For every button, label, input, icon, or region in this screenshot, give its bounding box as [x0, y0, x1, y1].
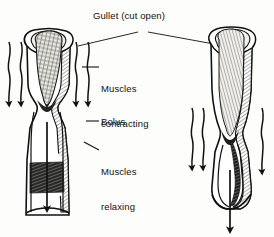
label-muscles-relaxing-line2: relaxing: [101, 201, 137, 213]
label-muscles-relaxing: Muscles relaxing: [101, 143, 137, 235]
label-muscles-contracting-line1: Muscles: [101, 83, 149, 95]
label-muscles-contracting: Muscles contracting: [101, 60, 149, 152]
label-gullet: Gullet (cut open): [93, 10, 165, 22]
label-bolus: Bolus: [101, 116, 125, 128]
peristalsis-diagram: Gullet (cut open) Muscles contracting Bo…: [0, 0, 274, 237]
label-muscles-relaxing-line1: Muscles: [101, 166, 137, 178]
